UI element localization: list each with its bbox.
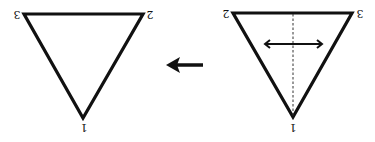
vertex-label-1: 1 — [290, 121, 297, 134]
vertex-label-2: 2 — [223, 7, 230, 20]
vertex-label-3: 3 — [357, 7, 364, 20]
vertex-label-1: 1 — [81, 121, 88, 134]
right-triangle: 2 3 1 — [223, 7, 364, 134]
vertex-label-2: 2 — [147, 8, 154, 21]
left-triangle: 3 2 1 — [14, 8, 154, 134]
reflection-diagram: 3 2 1 2 3 1 — [0, 0, 375, 142]
vertex-label-3: 3 — [14, 8, 21, 21]
transform-arrow — [166, 57, 203, 73]
